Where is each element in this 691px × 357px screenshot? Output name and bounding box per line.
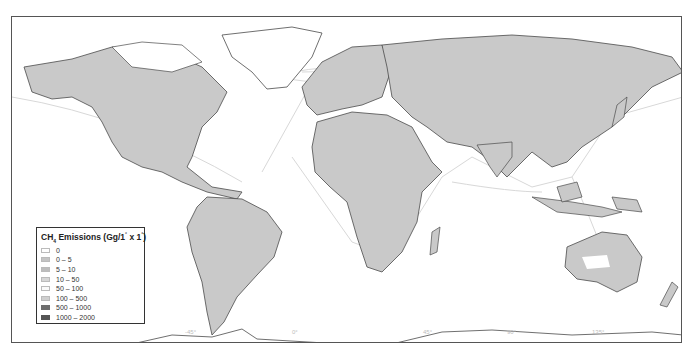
legend-swatch	[41, 315, 50, 320]
legend-item: 1000 – 2000	[41, 313, 140, 323]
new-zealand	[660, 282, 678, 307]
legend-swatch	[41, 305, 50, 310]
legend-swatch	[41, 267, 50, 272]
grid-label-bottom-45: 45°	[423, 329, 432, 335]
grid-label-bottom-90: 90°	[507, 329, 516, 335]
indonesia	[532, 197, 622, 217]
borneo	[557, 182, 582, 202]
legend-item: 0 – 5	[41, 255, 140, 265]
grid-label-bottom-m45: -45°	[185, 329, 196, 335]
antarctica	[132, 329, 342, 343]
legend-item: 50 – 100	[41, 284, 140, 294]
legend-item: 5 – 10	[41, 265, 140, 275]
legend: CH4 Emissions (Gg/1° x 1°) 0 0 – 5 5 – 1…	[36, 227, 145, 324]
grid-label-bottom-0: 0°	[292, 329, 298, 335]
new-guinea	[612, 197, 642, 212]
legend-swatch	[41, 296, 50, 301]
map-frame: -45° 0° 45° 90° 135° CH4 Emissions (Gg/1…	[11, 16, 682, 343]
legend-item: 10 – 50	[41, 274, 140, 284]
legend-item: 500 – 1000	[41, 303, 140, 313]
greenland	[222, 27, 322, 89]
north-america	[24, 47, 242, 199]
south-america	[187, 197, 282, 335]
europe	[302, 45, 392, 115]
madagascar	[430, 227, 440, 255]
australia-desert	[582, 255, 610, 269]
legend-swatch	[41, 277, 50, 282]
legend-swatch	[41, 286, 50, 291]
legend-title: CH4 Emissions (Gg/1° x 1°)	[41, 231, 140, 244]
legend-swatch	[41, 257, 50, 262]
legend-item: 100 – 500	[41, 293, 140, 303]
grid-label-bottom-135: 135°	[592, 329, 604, 335]
antarctica-east	[392, 330, 682, 343]
legend-swatch	[41, 248, 50, 253]
legend-item: 0	[41, 246, 140, 256]
africa	[312, 112, 442, 272]
